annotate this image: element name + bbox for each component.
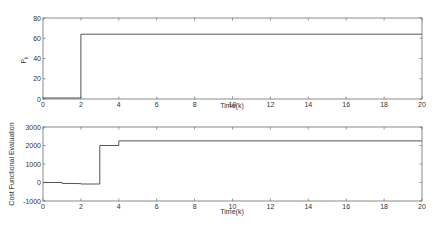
x-tick-label: 0: [41, 203, 45, 210]
x-tick-label: 0: [41, 101, 45, 108]
x-tick-label: 6: [155, 101, 159, 108]
x-tick-label: 20: [418, 203, 426, 210]
y-tick-label: 2000: [25, 142, 41, 149]
x-tick-label: 16: [342, 101, 350, 108]
svg-text:Cost Functional Evaluation: Cost Functional Evaluation: [8, 122, 15, 205]
chart-figure: 02468101214161820020406080 0246810121416…: [0, 0, 447, 226]
y-tick-label: -1000: [23, 198, 41, 205]
top-plot-axes-box: [43, 18, 422, 99]
bottom-plot-series-line: [43, 141, 422, 184]
x-tick-label: 12: [267, 203, 275, 210]
y-tick-label: 60: [33, 35, 41, 42]
x-tick-label: 14: [304, 101, 312, 108]
top-plot-series-line: [43, 34, 422, 98]
x-tick-label: 12: [267, 101, 275, 108]
y-tick-label: 3000: [25, 124, 41, 131]
x-tick-label: 8: [193, 203, 197, 210]
x-tick-label: 8: [193, 101, 197, 108]
x-tick-label: 6: [155, 203, 159, 210]
x-tick-label: 4: [117, 203, 121, 210]
x-tick-label: 18: [380, 101, 388, 108]
x-tick-label: 18: [380, 203, 388, 210]
y-tick-label: 1000: [25, 161, 41, 168]
y-tick-label: 40: [33, 55, 41, 62]
x-tick-label: 14: [304, 203, 312, 210]
y-tick-label: 0: [37, 179, 41, 186]
y-tick-label: 20: [33, 75, 41, 82]
x-tick-label: 16: [342, 203, 350, 210]
bottom-x-axis-label: Time(k): [220, 208, 243, 216]
bottom-y-axis-label: Cost Functional Evaluation: [8, 122, 15, 205]
y-tick-label: 80: [33, 15, 41, 22]
bottom-plot-cost: 02468101214161820-10000100020003000: [23, 124, 426, 211]
svg-text:Pk: Pk: [20, 56, 29, 64]
x-tick-label: 4: [117, 101, 121, 108]
x-tick-label: 20: [418, 101, 426, 108]
x-tick-label: 2: [79, 203, 83, 210]
top-y-label-sub: k: [23, 56, 29, 59]
y-tick-label: 0: [37, 96, 41, 103]
top-y-axis-label: Pk: [20, 56, 29, 64]
top-x-axis-label: Time(k): [220, 102, 243, 110]
x-tick-label: 2: [79, 101, 83, 108]
top-plot-pk: 02468101214161820020406080: [33, 15, 426, 109]
